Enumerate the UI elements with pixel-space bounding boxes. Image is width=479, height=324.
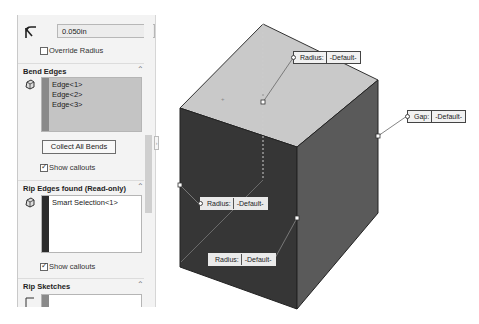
callout-anchor-icon [405,114,410,119]
radius-callout-top[interactable]: Radius: -Default- [293,51,361,64]
svg-text:+: + [221,96,225,102]
sheet-metal-box-model[interactable]: + [0,0,479,324]
callout-key: Radius: [294,52,327,63]
radius-callout-bottom[interactable]: Radius: -Default- [208,253,276,266]
callout-value[interactable]: -Default- [234,198,267,209]
callout-key: Gap: [408,111,432,122]
callout-value[interactable]: -Default- [432,111,465,122]
callout-key: Radius: [201,198,234,209]
gap-callout[interactable]: Gap: -Default- [407,110,466,123]
callout-value[interactable]: -Default- [242,254,275,265]
callout-key: Radius: [209,254,242,265]
radius-callout-left[interactable]: Radius: -Default- [200,197,268,210]
callout-anchor-icon [291,55,296,60]
callout-value[interactable]: -Default- [327,52,360,63]
callout-anchor-icon [198,201,203,206]
